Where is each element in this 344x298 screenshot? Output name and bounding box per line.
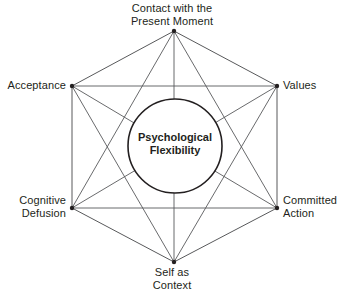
center-label-psychological-flexibility: Psychological Flexibility <box>127 131 223 157</box>
edge-upper-left-to-top <box>72 31 174 86</box>
node-label-acceptance: Acceptance <box>8 79 66 92</box>
vertex-dot-self-as-context <box>172 260 176 264</box>
node-label-contact-present-moment: Contact with the Present Moment <box>0 2 344 28</box>
vertex-dot-contact-present-moment <box>172 29 176 33</box>
vertex-dot-acceptance <box>70 84 74 88</box>
vertex-dot-values <box>275 84 279 88</box>
node-label-self-as-context: Self as Context <box>0 266 344 292</box>
vertex-dot-committed-action <box>275 206 279 210</box>
edge-top-to-upper-right <box>174 31 277 86</box>
vertex-dot-cognitive-defusion <box>70 206 74 210</box>
node-label-values: Values <box>283 79 316 92</box>
hexaflex-diagram: Contact with the Present Moment Values C… <box>0 0 344 298</box>
node-label-committed-action: Committed Action <box>283 194 337 220</box>
node-label-cognitive-defusion: Cognitive Defusion <box>19 194 66 220</box>
